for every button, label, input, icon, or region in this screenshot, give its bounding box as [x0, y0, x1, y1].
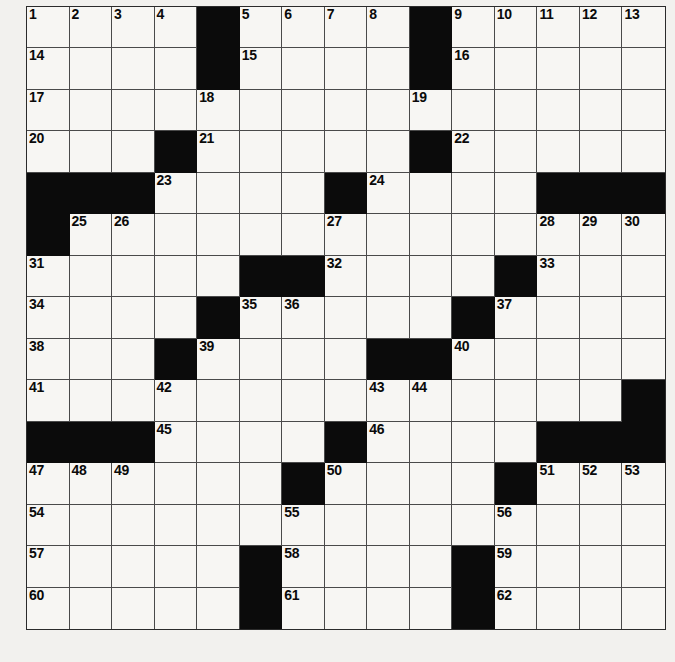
- crossword-cell[interactable]: [240, 173, 283, 214]
- crossword-cell[interactable]: [112, 505, 155, 546]
- crossword-cell[interactable]: [622, 90, 665, 131]
- crossword-cell[interactable]: 58: [282, 546, 325, 587]
- crossword-cell[interactable]: [580, 297, 623, 338]
- crossword-cell[interactable]: 61: [282, 588, 325, 629]
- crossword-cell[interactable]: 57: [27, 546, 70, 587]
- crossword-cell[interactable]: [537, 131, 580, 172]
- crossword-cell[interactable]: [410, 422, 453, 463]
- crossword-cell[interactable]: [495, 380, 538, 421]
- crossword-cell[interactable]: [537, 588, 580, 629]
- crossword-cell[interactable]: [410, 505, 453, 546]
- crossword-cell[interactable]: 62: [495, 588, 538, 629]
- crossword-cell[interactable]: [325, 380, 368, 421]
- crossword-cell[interactable]: 16: [452, 48, 495, 89]
- crossword-cell[interactable]: 37: [495, 297, 538, 338]
- crossword-cell[interactable]: [452, 380, 495, 421]
- crossword-cell[interactable]: 22: [452, 131, 495, 172]
- crossword-cell[interactable]: 24: [367, 173, 410, 214]
- crossword-cell[interactable]: [410, 588, 453, 629]
- crossword-cell[interactable]: [282, 90, 325, 131]
- crossword-cell[interactable]: 8: [367, 7, 410, 48]
- crossword-cell[interactable]: [367, 48, 410, 89]
- crossword-cell[interactable]: [367, 297, 410, 338]
- crossword-cell[interactable]: [495, 422, 538, 463]
- crossword-cell[interactable]: [367, 256, 410, 297]
- crossword-cell[interactable]: 50: [325, 463, 368, 504]
- crossword-cell[interactable]: 17: [27, 90, 70, 131]
- crossword-cell[interactable]: 26: [112, 214, 155, 255]
- crossword-cell[interactable]: 11: [537, 7, 580, 48]
- crossword-cell[interactable]: [325, 131, 368, 172]
- crossword-cell[interactable]: [452, 173, 495, 214]
- crossword-cell[interactable]: 27: [325, 214, 368, 255]
- crossword-cell[interactable]: 47: [27, 463, 70, 504]
- crossword-cell[interactable]: [452, 505, 495, 546]
- crossword-cell[interactable]: [410, 546, 453, 587]
- crossword-cell[interactable]: [367, 90, 410, 131]
- crossword-cell[interactable]: 51: [537, 463, 580, 504]
- crossword-cell[interactable]: [155, 505, 198, 546]
- crossword-cell[interactable]: [495, 173, 538, 214]
- crossword-cell[interactable]: 59: [495, 546, 538, 587]
- crossword-cell[interactable]: [580, 505, 623, 546]
- crossword-cell[interactable]: 28: [537, 214, 580, 255]
- crossword-cell[interactable]: 18: [197, 90, 240, 131]
- crossword-cell[interactable]: [155, 90, 198, 131]
- crossword-cell[interactable]: [452, 214, 495, 255]
- crossword-cell[interactable]: [240, 214, 283, 255]
- crossword-cell[interactable]: [240, 380, 283, 421]
- crossword-cell[interactable]: [367, 588, 410, 629]
- crossword-cell[interactable]: 44: [410, 380, 453, 421]
- crossword-cell[interactable]: [367, 505, 410, 546]
- crossword-cell[interactable]: 7: [325, 7, 368, 48]
- crossword-cell[interactable]: [452, 90, 495, 131]
- crossword-cell[interactable]: [70, 48, 113, 89]
- crossword-grid[interactable]: 1234567891011121314151617181920212223242…: [26, 6, 666, 630]
- crossword-cell[interactable]: [410, 214, 453, 255]
- crossword-cell[interactable]: [70, 297, 113, 338]
- crossword-cell[interactable]: [580, 380, 623, 421]
- crossword-cell[interactable]: 2: [70, 7, 113, 48]
- crossword-cell[interactable]: [622, 339, 665, 380]
- crossword-cell[interactable]: [580, 256, 623, 297]
- crossword-cell[interactable]: [70, 256, 113, 297]
- crossword-cell[interactable]: 53: [622, 463, 665, 504]
- crossword-cell[interactable]: 20: [27, 131, 70, 172]
- crossword-cell[interactable]: [367, 463, 410, 504]
- crossword-cell[interactable]: [197, 173, 240, 214]
- crossword-cell[interactable]: 31: [27, 256, 70, 297]
- crossword-cell[interactable]: [580, 546, 623, 587]
- crossword-cell[interactable]: [580, 48, 623, 89]
- crossword-cell[interactable]: 25: [70, 214, 113, 255]
- crossword-cell[interactable]: 52: [580, 463, 623, 504]
- crossword-cell[interactable]: 41: [27, 380, 70, 421]
- crossword-cell[interactable]: [282, 173, 325, 214]
- crossword-cell[interactable]: [282, 422, 325, 463]
- crossword-cell[interactable]: 48: [70, 463, 113, 504]
- crossword-cell[interactable]: [622, 256, 665, 297]
- crossword-cell[interactable]: [240, 463, 283, 504]
- crossword-cell[interactable]: [452, 422, 495, 463]
- crossword-cell[interactable]: [537, 297, 580, 338]
- crossword-cell[interactable]: [155, 256, 198, 297]
- crossword-cell[interactable]: [155, 214, 198, 255]
- crossword-cell[interactable]: 49: [112, 463, 155, 504]
- crossword-cell[interactable]: 21: [197, 131, 240, 172]
- crossword-cell[interactable]: 15: [240, 48, 283, 89]
- crossword-cell[interactable]: [70, 546, 113, 587]
- crossword-cell[interactable]: [537, 546, 580, 587]
- crossword-cell[interactable]: [537, 90, 580, 131]
- crossword-cell[interactable]: [325, 339, 368, 380]
- crossword-cell[interactable]: [282, 131, 325, 172]
- crossword-cell[interactable]: [112, 297, 155, 338]
- crossword-cell[interactable]: [112, 380, 155, 421]
- crossword-cell[interactable]: 60: [27, 588, 70, 629]
- crossword-cell[interactable]: [240, 339, 283, 380]
- crossword-cell[interactable]: 33: [537, 256, 580, 297]
- crossword-cell[interactable]: [112, 48, 155, 89]
- crossword-cell[interactable]: 40: [452, 339, 495, 380]
- crossword-cell[interactable]: [537, 505, 580, 546]
- crossword-cell[interactable]: [112, 131, 155, 172]
- crossword-cell[interactable]: [325, 546, 368, 587]
- crossword-cell[interactable]: 1: [27, 7, 70, 48]
